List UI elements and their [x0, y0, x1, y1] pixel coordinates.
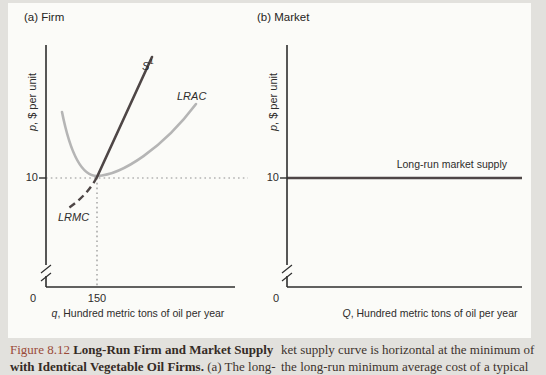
panel-b-y-label-rest: , $ per unit — [267, 73, 279, 125]
lrac-curve — [62, 104, 196, 176]
panel-a-title: (a) Firm — [24, 11, 64, 24]
caption-left-column: Figure 8.12 Long-Run Firm and Market Sup… — [10, 342, 276, 375]
panel-b-x-label-rest: , Hundred metric tons of oil per year — [351, 307, 518, 319]
caption-right-column: ket supply curve is horizontal at the mi… — [281, 342, 541, 375]
panel-a-y-label-var: p — [26, 125, 38, 131]
panel-a-origin-label: 0 — [26, 292, 40, 305]
panel-b-y-axis-label: p, $ per unit — [267, 73, 279, 131]
lrmc-curve-label: LRMC — [58, 211, 89, 224]
panel-b-title: (b) Market — [257, 11, 309, 24]
panel-b-x-label-var: Q — [342, 307, 350, 319]
caption-left-tail: (a) The long- — [207, 359, 275, 374]
market-supply-line-label: Long-run market supply — [357, 158, 507, 171]
panel-b-price-tick-label: 10 — [259, 171, 279, 184]
lrac-curve-label: LRAC — [177, 90, 206, 103]
caption-figure-number: Figure 8.12 — [10, 342, 70, 357]
s1-curve-label: S1 — [142, 55, 154, 73]
panel-a-y-axis-label: p, $ per unit — [26, 73, 38, 131]
panel-a-x-label-rest: , Hundred metric tons of oil per year — [57, 307, 224, 319]
panel-b-y-label-var: p — [267, 125, 279, 131]
panel-a-y-label-rest: , $ per unit — [26, 73, 38, 125]
s1-label-superscript: 1 — [149, 57, 153, 66]
panel-b-x-axis-label: Q, Hundred metric tons of oil per year — [330, 307, 530, 320]
s1-supply-curve — [97, 57, 152, 177]
lrmc-dashed-curve — [67, 177, 97, 209]
panel-b-origin-label: 0 — [269, 292, 283, 305]
panel-a-price-tick-label: 10 — [18, 171, 38, 184]
panel-a-quantity-tick-label: 150 — [84, 292, 110, 305]
panel-a-x-axis-label: q, Hundred metric tons of oil per year — [38, 307, 238, 320]
